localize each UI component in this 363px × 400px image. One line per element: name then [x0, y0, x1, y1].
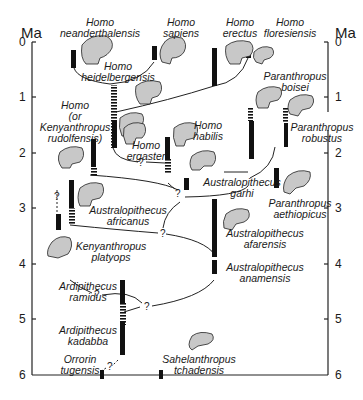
- skull-icon-heidelbergensis: [136, 81, 162, 104]
- label-australopithecus-garhi: Australopithecusgarhi: [203, 177, 281, 199]
- left-tick-3: 3: [19, 201, 26, 215]
- svg-text:?: ?: [107, 361, 113, 372]
- svg-text:?: ?: [175, 188, 181, 199]
- skull-icon-sapiens: [160, 37, 186, 64]
- label-homo-rudolfensis: Homo(orKenyanthropusrudolfensis): [40, 100, 111, 144]
- label-paranthropus-aethiopicus: Paranthropusaethiopicus: [268, 198, 331, 220]
- skull-icon-africanus: [78, 183, 104, 206]
- skull-icon-aethiopicus: [284, 171, 311, 194]
- right-tick-4: 4: [335, 257, 342, 271]
- skull-icon-floresiensis: [253, 47, 273, 64]
- right-tick-3: 3: [335, 201, 342, 215]
- label-homo-sapiens: Homosapiens: [163, 17, 199, 39]
- label-homo-ergaster: Homoergaster: [127, 140, 166, 162]
- label-ardipithecus-kadabba: Ardipithecuskadabba: [59, 325, 117, 347]
- label-kenyanthropus-platyops: Kenyanthropusplatyops: [76, 241, 147, 263]
- skull-icon-garhi: [190, 151, 216, 170]
- label-homo-neanderthalensis: Homoneanderthalensis: [60, 17, 140, 39]
- svg-text:?: ?: [54, 191, 60, 202]
- label-orrorin-tugensis: Orrorintugensis: [60, 354, 99, 376]
- right-tick-2: 2: [335, 146, 342, 160]
- label-australopithecus-afarensis: Australopithecusafarensis: [226, 228, 304, 250]
- skull-icon-left-early-homo: [58, 147, 83, 168]
- right-tick-0: 0: [335, 35, 342, 49]
- label-homo-heidelbergensis: Homoheidelbergensis: [81, 61, 155, 83]
- right-tick-1: 1: [335, 90, 342, 104]
- label-ardipithecus-ramidus: Ardipithecusramidus: [59, 281, 117, 303]
- left-tick-4: 4: [19, 257, 26, 271]
- left-tick-1: 1: [19, 90, 26, 104]
- label-homo-habilis: Homohabilis: [193, 120, 223, 142]
- label-sahelanthropus-tchadensis: Sahelanthropustchadensis: [162, 354, 236, 376]
- skull-icon-platyops: [48, 237, 72, 258]
- hominin-phylogeny-diagram: ? ? ? ? ? ? ?: [0, 0, 363, 400]
- label-homo-erectus: Homoerectus: [223, 17, 257, 39]
- skull-icon-erectus: [226, 41, 254, 64]
- svg-text:?: ?: [144, 301, 150, 312]
- skull-icon-robustus: [288, 95, 314, 116]
- label-homo-floresiensis: Homofloresiensis: [264, 17, 317, 39]
- right-tick-5: 5: [335, 312, 342, 326]
- label-paranthropus-boisei: Paranthropusboisei: [263, 71, 326, 93]
- label-paranthropus-robustus: Paranthropusrobustus: [290, 122, 353, 144]
- label-australopithecus-anamensis: Australopithecusanamensis: [226, 262, 304, 284]
- label-australopithecus-africanus: Australopithecusafricanus: [89, 205, 167, 227]
- left-tick-6: 6: [19, 368, 26, 382]
- left-tick-5: 5: [19, 312, 26, 326]
- left-tick-2: 2: [19, 146, 26, 160]
- skull-icon-tchadensis: [189, 332, 213, 350]
- left-tick-0: 0: [19, 35, 26, 49]
- right-tick-6: 6: [335, 368, 342, 382]
- svg-text:?: ?: [160, 228, 166, 239]
